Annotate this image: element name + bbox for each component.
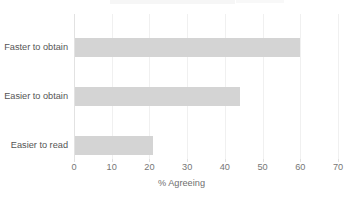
cropped-title-remnant: [110, 0, 235, 4]
tick-label-30: 30: [172, 162, 202, 173]
tick-label-10: 10: [97, 162, 127, 173]
tick-label-60: 60: [285, 162, 315, 173]
tick-label-20: 20: [134, 162, 164, 173]
bar-2: [75, 136, 153, 155]
tick-label-40: 40: [210, 162, 240, 173]
bar-0: [75, 38, 300, 57]
cropped-title-remnant-secondary: [236, 0, 284, 3]
category-label-easier-to-read: Easier to read: [0, 140, 68, 151]
x-axis-title: % Agreeing: [0, 178, 363, 189]
tick-label-70: 70: [323, 162, 353, 173]
gridline-70: [338, 14, 339, 159]
category-label-faster-to-obtain: Faster to obtain: [0, 42, 68, 53]
tick-label-0: 0: [59, 162, 89, 173]
bar-chart: Faster to obtain Easier to obtain Easier…: [0, 0, 363, 197]
category-label-easier-to-obtain: Easier to obtain: [0, 91, 68, 102]
bar-1: [75, 87, 240, 106]
plot-area: [74, 14, 338, 159]
tick-label-50: 50: [248, 162, 278, 173]
gridline-50: [263, 14, 264, 159]
gridline-60: [300, 14, 301, 159]
